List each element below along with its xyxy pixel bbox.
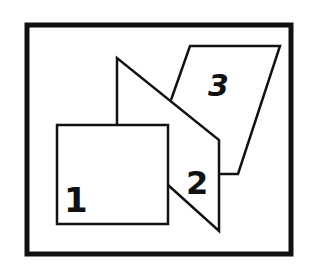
layered-panels-diagram: 3 2 1 (0, 0, 310, 266)
panel-3-label: 3 (208, 68, 229, 103)
panel-1: 1 (57, 125, 168, 224)
panel-2-label: 2 (186, 164, 208, 202)
panel-1-label: 1 (64, 180, 88, 220)
